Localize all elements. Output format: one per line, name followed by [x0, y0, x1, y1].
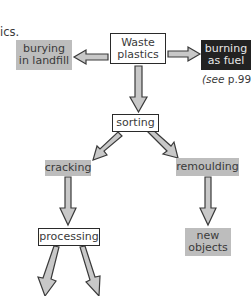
node-remoulding: remoulding: [176, 158, 239, 176]
arrow-to-cracking: [93, 132, 122, 160]
node-waste-plastics: Waste plastics: [110, 33, 166, 64]
node-bury-line2: in landfill: [19, 55, 69, 67]
node-sorting-label: sorting: [116, 117, 154, 129]
node-newobjects-line2: objects: [188, 242, 228, 254]
node-sorting: sorting: [112, 114, 159, 132]
note-page: p.99): [225, 73, 252, 85]
burning-page-reference: (see p.99): [202, 73, 251, 85]
arrow-processing-right: [80, 246, 100, 296]
node-cracking: cracking: [45, 160, 91, 176]
node-remoulding-label: remoulding: [176, 161, 239, 173]
node-new-objects: new objects: [185, 228, 231, 256]
arrow-processing-left: [38, 246, 59, 296]
arrow-to-remoulding: [148, 129, 178, 158]
arrow-to-new-objects: [200, 177, 216, 225]
arrow-to-burning: [168, 47, 200, 61]
arrow-to-burying: [74, 50, 108, 64]
node-cracking-label: cracking: [45, 162, 92, 174]
node-processing: processing: [38, 228, 100, 246]
node-burning-as-fuel: burning as fuel: [201, 40, 251, 70]
arrow-to-processing: [60, 177, 76, 225]
arrow-to-sorting: [130, 66, 147, 112]
node-waste-line1: Waste: [117, 37, 159, 49]
node-waste-line2: plastics: [117, 49, 159, 61]
node-burn-line2: as fuel: [205, 55, 247, 67]
node-processing-label: processing: [39, 231, 98, 243]
node-burying-in-landfill: burying in landfill: [16, 40, 72, 70]
note-see: see: [206, 73, 224, 85]
text-fragment: ics.: [0, 26, 20, 38]
